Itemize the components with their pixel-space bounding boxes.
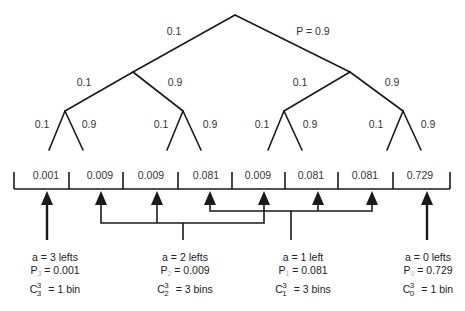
group-a-label: a = 0 lefts <box>403 251 453 264</box>
group-legend-1-left: a = 1 left P1 = 0.081 C31 = 3 bins <box>275 251 331 296</box>
edge-label-l3-1-left: 0.1 <box>154 118 169 130</box>
edge-label-l2-1-left: 0.1 <box>293 76 308 88</box>
bin-value: 0.729 <box>407 169 433 181</box>
group-probability: P3 = 0.001 <box>30 264 80 280</box>
edge-label-l3-3-left: 0.1 <box>369 118 384 130</box>
group-legend-2-lefts: a = 2 lefts P2 = 0.009 C32 = 3 bins <box>157 251 213 296</box>
edge-label-l2-1-right: 0.9 <box>385 76 400 88</box>
edge-label-root-right: P = 0.9 <box>296 25 329 37</box>
bin-value: 0.001 <box>33 169 59 181</box>
edge-label-l2-0-left: 0.1 <box>77 76 92 88</box>
edge-label-l3-2-right: 0.9 <box>303 118 318 130</box>
edge-label-l3-3-right: 0.9 <box>421 118 436 130</box>
group-a-label: a = 2 lefts <box>157 251 213 264</box>
group-probability: P1 = 0.081 <box>275 264 331 280</box>
bin-value: 0.009 <box>87 169 113 181</box>
edge-label-root-left: 0.1 <box>167 25 182 37</box>
bin-value: 0.081 <box>352 169 378 181</box>
group-a-label: a = 3 lefts <box>30 251 80 264</box>
bin-value: 0.081 <box>298 169 324 181</box>
arrows <box>41 191 433 240</box>
bin-value: 0.081 <box>193 169 219 181</box>
group-combination: C31 = 3 bins <box>275 283 331 296</box>
group-combination: C33 = 1 bin <box>30 283 80 296</box>
group-legend-3-lefts: a = 3 lefts P3 = 0.001 C33 = 1 bin <box>30 251 80 296</box>
edge-label-l3-1-right: 0.9 <box>203 118 218 130</box>
edge-label-l3-0-right: 0.9 <box>82 118 97 130</box>
tree-edges <box>49 15 421 150</box>
bin-value: 0.009 <box>245 169 271 181</box>
bin-value: 0.009 <box>138 169 164 181</box>
edge-label-l2-0-right: 0.9 <box>168 76 183 88</box>
edge-label-l3-0-left: 0.1 <box>35 118 50 130</box>
group-probability: P2 = 0.009 <box>157 264 213 280</box>
group-probability: P0 = 0.729 <box>403 264 453 280</box>
edge-label-l3-2-left: 0.1 <box>255 118 270 130</box>
group-legend-0-lefts: a = 0 lefts P0 = 0.729 C30 = 1 bin <box>403 251 453 296</box>
group-combination: C30 = 1 bin <box>403 283 453 296</box>
group-a-label: a = 1 left <box>275 251 331 264</box>
group-combination: C32 = 3 bins <box>157 283 213 296</box>
bin-row <box>14 172 450 189</box>
